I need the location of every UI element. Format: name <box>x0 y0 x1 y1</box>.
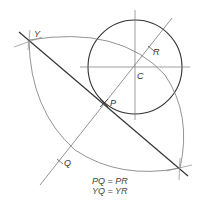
geometry-diagram: Y R C P Q PQ = PR YQ = YR <box>0 0 199 205</box>
label-y: Y <box>34 29 41 39</box>
equation-2: YQ = YR <box>92 186 128 196</box>
label-c: C <box>137 71 144 81</box>
label-p: P <box>110 98 116 108</box>
tick-x-2 <box>179 158 180 180</box>
upper-arc <box>29 37 184 168</box>
label-r: R <box>153 47 160 57</box>
equation-1: PQ = PR <box>92 176 128 186</box>
label-q: Q <box>64 158 71 168</box>
tick-x-1 <box>166 165 192 171</box>
